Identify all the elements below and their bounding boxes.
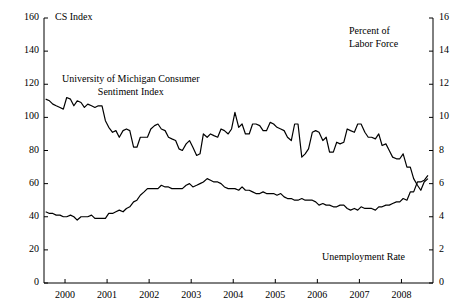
- left-tick-label-40: 40: [13, 210, 39, 221]
- right-tick-label-8: 8: [439, 144, 461, 155]
- right-tick-label-16: 16: [439, 11, 461, 22]
- left-tick-label-100: 100: [13, 110, 39, 121]
- x-tick-label-2000: 2000: [45, 289, 85, 300]
- x-tick-label-2004: 2004: [213, 289, 253, 300]
- left-tick-label-80: 80: [13, 144, 39, 155]
- x-tick-label-2001: 2001: [87, 289, 127, 300]
- series-line-consumer-sentiment: [46, 98, 428, 191]
- unemployment-annotation: Unemployment Rate: [322, 250, 405, 263]
- left-tick-label-120: 120: [13, 77, 39, 88]
- right-tick-label-14: 14: [439, 44, 461, 55]
- x-tick-label-2007: 2007: [339, 289, 379, 300]
- left-tick-label-160: 160: [13, 11, 39, 22]
- left-tick-label-140: 140: [13, 44, 39, 55]
- sentiment-annotation-line2: Sentiment Index: [62, 85, 199, 98]
- x-tick-label-2006: 2006: [297, 289, 337, 300]
- chart-container: CS Index Percent ofLabor Force 020406080…: [0, 0, 472, 307]
- left-tick-label-20: 20: [13, 243, 39, 254]
- series-line-unemployment-rate: [46, 175, 428, 220]
- right-tick-label-6: 6: [439, 177, 461, 188]
- left-tick-label-60: 60: [13, 177, 39, 188]
- x-tick-label-2003: 2003: [171, 289, 211, 300]
- x-tick-label-2008: 2008: [381, 289, 421, 300]
- sentiment-annotation: University of Michigan ConsumerSentiment…: [62, 72, 199, 98]
- sentiment-annotation-line1: University of Michigan Consumer: [62, 72, 199, 85]
- right-tick-label-10: 10: [439, 110, 461, 121]
- right-tick-label-0: 0: [439, 276, 461, 287]
- right-tick-label-12: 12: [439, 77, 461, 88]
- x-tick-label-2005: 2005: [255, 289, 295, 300]
- left-tick-label-0: 0: [13, 276, 39, 287]
- right-tick-label-2: 2: [439, 243, 461, 254]
- x-tick-label-2002: 2002: [129, 289, 169, 300]
- right-tick-label-4: 4: [439, 210, 461, 221]
